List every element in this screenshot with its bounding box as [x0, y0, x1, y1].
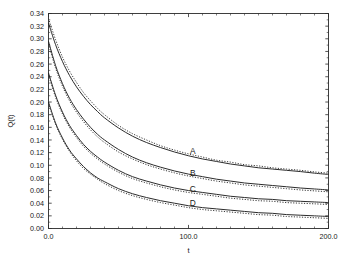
curve-b: [49, 41, 329, 190]
x-tick-label: 200.0: [320, 232, 338, 241]
curve-label-a: A: [190, 146, 196, 156]
y-tick-label: 0.06: [30, 186, 44, 195]
y-tick-label: 0.02: [30, 211, 44, 220]
plot-frame: [49, 14, 329, 229]
plot-canvas: 0.000.020.040.060.080.100.120.140.160.18…: [0, 0, 350, 270]
y-tick-label: 0.24: [30, 72, 44, 81]
y-tick-label: 0.10: [30, 161, 44, 170]
y-tick-label: 0.22: [30, 85, 44, 94]
x-axis-ticks: [49, 14, 329, 229]
curve-c-dotted: [49, 75, 329, 205]
curve-a-dotted: [49, 19, 329, 174]
x-axis-title: t: [187, 246, 190, 255]
curve-label-d: D: [190, 198, 196, 208]
y-axis-title: Q(t): [6, 114, 15, 128]
curve-label-b: B: [190, 168, 196, 178]
curve-b-dotted: [49, 44, 329, 192]
chart-figure: 0.000.020.040.060.080.100.120.140.160.18…: [0, 0, 350, 270]
curve-d: [49, 102, 329, 216]
x-tick-label: 0.0: [44, 232, 54, 241]
y-axis-tick-labels: 0.000.020.040.060.080.100.120.140.160.18…: [30, 9, 44, 233]
y-tick-label: 0.26: [30, 60, 44, 69]
y-tick-label: 0.14: [30, 136, 44, 145]
curve-label-c: C: [190, 184, 196, 194]
x-axis-tick-labels: 0.0100.0200.0: [44, 232, 338, 241]
y-tick-label: 0.18: [30, 110, 44, 119]
y-tick-label: 0.16: [30, 123, 44, 132]
y-axis-ticks: [49, 14, 329, 229]
x-axis-minor-ticks: [63, 14, 315, 229]
y-tick-label: 0.08: [30, 174, 44, 183]
axes-frame: [49, 14, 329, 229]
y-tick-label: 0.12: [30, 148, 44, 157]
y-tick-label: 0.20: [30, 98, 44, 107]
y-tick-label: 0.04: [30, 199, 44, 208]
y-tick-label: 0.28: [30, 47, 44, 56]
curve-c: [49, 73, 329, 203]
y-tick-label: 0.34: [30, 9, 44, 18]
y-tick-label: 0.32: [30, 22, 44, 31]
curve-labels: ABCD: [190, 146, 196, 208]
y-tick-label: 0.00: [30, 224, 44, 233]
x-tick-label: 100.0: [180, 232, 198, 241]
data-curves: [49, 19, 329, 219]
y-tick-label: 0.30: [30, 34, 44, 43]
